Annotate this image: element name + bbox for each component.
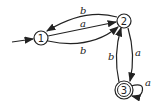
state-2: 2 [117,14,131,28]
edge-label: b [80,5,86,16]
svg-text:2: 2 [121,16,127,27]
edge-label: b [80,45,86,56]
start-arrow [12,39,33,42]
edge-label: b [108,51,114,62]
state-1: 1 [34,31,48,45]
edge-label: a [135,47,141,58]
svg-text:3: 3 [121,85,127,96]
state-3-accepting: 3 [115,81,133,99]
edge-2-3-a [128,28,133,81]
automaton-diagram: b a b a b a 1 2 3 [0,0,157,107]
edge-3-2-b [116,28,121,82]
edge-1-2-b [48,27,118,44]
edge-label: a [145,77,151,88]
svg-text:1: 1 [38,33,44,44]
edge-label: a [80,18,86,29]
